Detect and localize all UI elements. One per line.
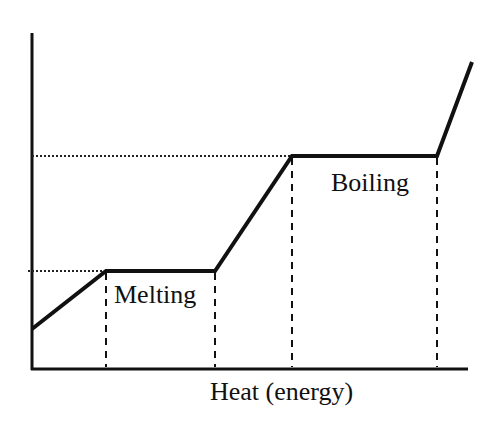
- heating-curve-diagram: [0, 0, 497, 437]
- boiling-label: Boiling: [331, 168, 409, 198]
- melting-label: Melting: [114, 280, 196, 310]
- x-axis-label: Heat (energy): [210, 377, 353, 407]
